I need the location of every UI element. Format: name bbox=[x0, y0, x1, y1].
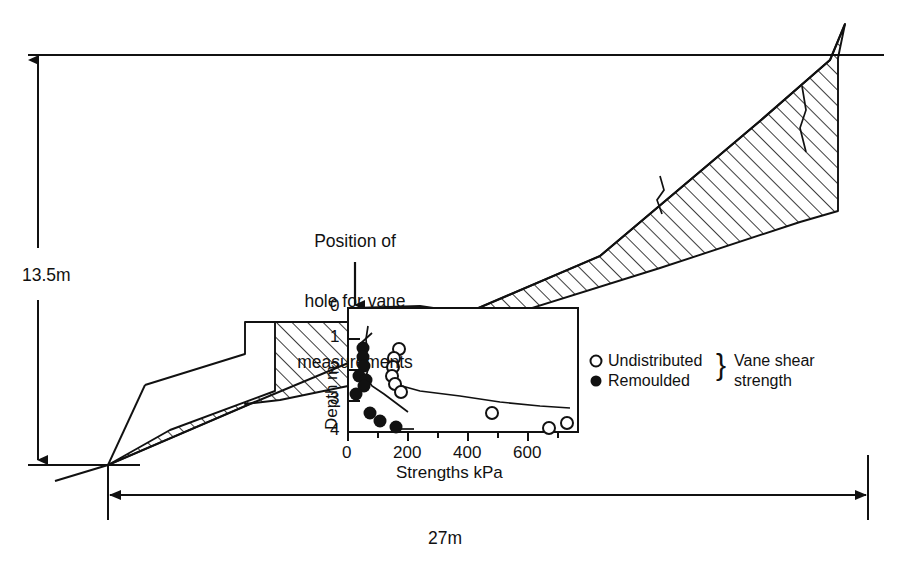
figure-root: Position of hole for vane measurements 1… bbox=[0, 0, 901, 562]
legend-label-remoulded: Remoulded bbox=[608, 372, 690, 391]
depth-tick-1: 1 bbox=[330, 327, 339, 347]
legend-brace-line-1: Vane shear bbox=[734, 352, 815, 371]
legend-label-undistributed: Undistributed bbox=[608, 352, 702, 371]
strength-tick-600: 600 bbox=[513, 443, 541, 463]
legend-markers bbox=[591, 356, 602, 387]
depth-axis-title: Depth m bbox=[322, 366, 342, 430]
depth-tick-0: 0 bbox=[330, 296, 339, 316]
height-dimension-label: 13.5m bbox=[22, 265, 71, 285]
strength-tick-0: 0 bbox=[342, 443, 351, 463]
slipped-mass-upper bbox=[420, 24, 845, 333]
strength-tick-200: 200 bbox=[393, 443, 421, 463]
legend-brace-line-2: strength bbox=[734, 372, 792, 391]
strength-axis-title: Strengths kPa bbox=[396, 463, 503, 483]
legend-brace-icon: } bbox=[716, 350, 726, 380]
width-dimension-label: 27m bbox=[428, 528, 462, 548]
vane-hole-annotation: Position of hole for vane measurements bbox=[272, 190, 438, 413]
strength-axis-ticks bbox=[348, 432, 558, 441]
annotation-line-2: hole for vane bbox=[272, 291, 438, 311]
annotation-line-1: Position of bbox=[272, 231, 438, 251]
annotation-line-3: measurements bbox=[272, 352, 438, 372]
strength-tick-400: 400 bbox=[453, 443, 481, 463]
